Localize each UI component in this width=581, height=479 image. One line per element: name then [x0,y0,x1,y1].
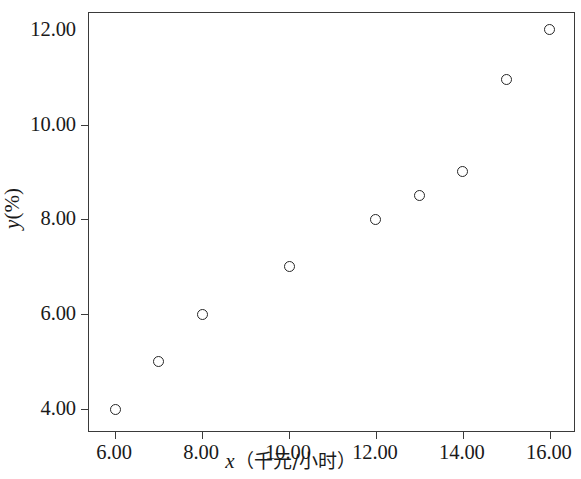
data-point [153,356,164,367]
y-tick-mark [81,409,89,410]
y-tick-mark [81,219,89,220]
x-tick-mark [550,431,551,439]
data-point [197,309,208,320]
x-tick-mark [115,431,116,439]
x-tick-mark [289,431,290,439]
x-tick-mark [463,431,464,439]
data-point [457,166,468,177]
y-tick-label: 4.00 [41,397,76,420]
x-axis-unit: （千元/小时） [235,450,355,472]
x-tick-mark [376,431,377,439]
y-tick-mark [81,314,89,315]
data-point [110,404,121,415]
data-point [544,24,555,35]
data-point [414,190,425,201]
data-point [501,74,512,85]
data-point [370,214,381,225]
y-tick-label: 6.00 [41,302,76,325]
y-axis-variable: y [0,220,24,229]
y-axis-title: y(%) [0,119,25,299]
y-tick-label: 12.00 [30,17,76,40]
x-tick-mark [202,431,203,439]
x-axis-variable: x [225,449,235,473]
y-axis-unit: (%) [0,188,24,219]
y-tick-label: 8.00 [41,207,76,230]
y-tick-mark [81,125,89,126]
y-tick-label: 10.00 [30,112,76,135]
x-axis-title: x（千元/小时） [0,446,581,474]
scatter-plot-figure: 4.006.008.0010.0012.00 6.008.0010.0012.0… [0,0,581,479]
data-point [284,261,295,272]
plot-area [88,12,575,432]
